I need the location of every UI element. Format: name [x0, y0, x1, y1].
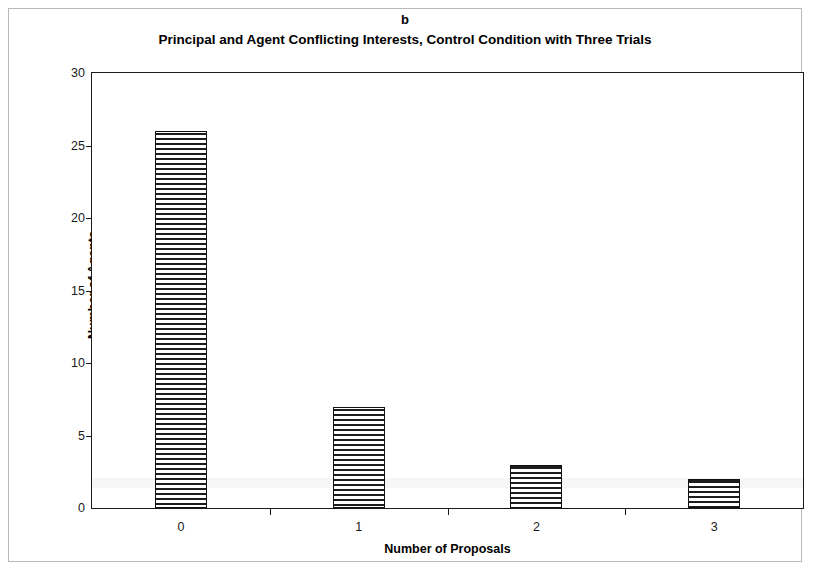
bar: [688, 479, 740, 508]
y-tick-label: 30: [71, 66, 85, 80]
y-tick-mark: [86, 146, 92, 147]
y-tick-mark: [86, 291, 92, 292]
x-axis-title: Number of Proposals: [92, 542, 803, 556]
bar: [510, 465, 562, 509]
bar: [333, 407, 385, 509]
y-tick-mark: [86, 218, 92, 219]
y-tick-label: 20: [71, 211, 85, 225]
bar: [155, 131, 207, 508]
y-tick-label: 25: [71, 139, 85, 153]
x-tick-label: 3: [711, 520, 718, 534]
plot-area: Number of Proposals 0510152025300123: [91, 72, 804, 509]
x-tick-label: 2: [533, 520, 540, 534]
y-tick-label: 0: [78, 501, 85, 515]
chart-title: Principal and Agent Conflicting Interest…: [9, 32, 801, 47]
y-tick-mark: [86, 436, 92, 437]
x-tick-mark: [625, 508, 626, 515]
y-tick-mark: [86, 363, 92, 364]
panel-letter: b: [9, 12, 801, 27]
x-tick-label: 1: [355, 520, 362, 534]
y-tick-label: 15: [71, 284, 85, 298]
x-tick-mark: [270, 508, 271, 515]
figure-frame: b Principal and Agent Conflicting Intere…: [8, 8, 802, 562]
y-tick-label: 10: [71, 356, 85, 370]
x-tick-mark: [448, 508, 449, 515]
y-tick-label: 5: [78, 429, 85, 443]
x-tick-label: 0: [177, 520, 184, 534]
